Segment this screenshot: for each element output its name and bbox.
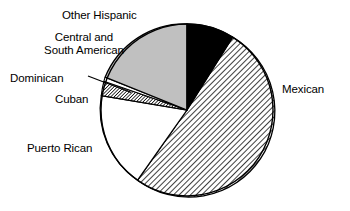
pie-label-other-hispanic: Other Hispanic (62, 9, 137, 22)
pie-label-central-south-american-line1: Central and (55, 31, 113, 43)
pie-label-central-south-american-line2: South American (44, 44, 124, 56)
pie-label-puerto-rican: Puerto Rican (27, 142, 92, 155)
pie-label-cuban: Cuban (55, 93, 88, 106)
pie-chart: Other Hispanic Central and South America… (0, 0, 350, 211)
pie-label-mexican: Mexican (282, 83, 324, 96)
pie-label-central-south-american: Central and South American (32, 31, 136, 57)
pie-label-dominican: Dominican (10, 72, 63, 85)
